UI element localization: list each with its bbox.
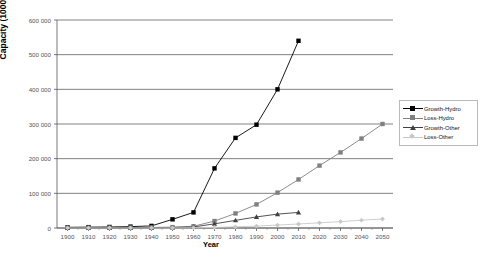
- chart-legend: Growth-HydroLoss-HydroGrowth-OtherLoss-O…: [399, 100, 478, 146]
- legend-item-growth-other[interactable]: Growth-Other: [402, 123, 475, 133]
- y-tick-label: 500 000: [9, 51, 51, 58]
- legend-label: Loss-Hydro: [423, 115, 454, 121]
- y-tick-label: 100 000: [9, 190, 51, 197]
- legend-item-growth-hydro[interactable]: Growth-Hydro: [402, 104, 475, 114]
- y-tick-label: 600 000: [9, 17, 51, 24]
- legend-item-loss-other[interactable]: Loss-Other: [402, 133, 475, 143]
- series-loss-hydro: [65, 122, 384, 230]
- legend-swatch-icon: [403, 114, 423, 123]
- chart-figure: Capacity (1000m³) Year 600 000500 000400…: [0, 0, 483, 262]
- legend-label: Loss-Other: [423, 134, 453, 140]
- legend-swatch-icon: [403, 123, 423, 132]
- legend-swatch-icon: [403, 133, 423, 142]
- y-tick-label: 200 000: [9, 155, 51, 162]
- legend-item-loss-hydro[interactable]: Loss-Hydro: [402, 114, 475, 124]
- y-tick-label: 400 000: [9, 86, 51, 93]
- y-tick-label: 300 000: [9, 121, 51, 128]
- legend-label: Growth-Other: [423, 125, 460, 131]
- y-tick-label: 0: [9, 225, 51, 232]
- legend-label: Growth-Hydro: [423, 106, 461, 112]
- legend-swatch-icon: [403, 104, 423, 113]
- x-tick-label: 2050: [370, 233, 396, 240]
- series-growth-hydro: [65, 39, 300, 230]
